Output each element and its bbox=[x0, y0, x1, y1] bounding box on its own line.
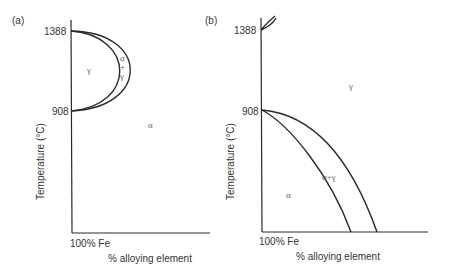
panel-b-tick-908: 908 bbox=[242, 106, 259, 117]
panel-b-y-axis-label: Temperature (°C) bbox=[225, 123, 236, 200]
panel-b-alpha-label: α bbox=[286, 190, 291, 200]
panel-a-alpha-label: α bbox=[148, 120, 153, 130]
panel-b-x-axis-label: % alloying element bbox=[296, 251, 380, 262]
phase-diagram-figure: (a) 1388 908 Temperature (°C) 100% Fe % … bbox=[0, 0, 453, 269]
panel-b-tick-1388: 1388 bbox=[234, 25, 257, 36]
panel-b-upper-curve-2 bbox=[261, 18, 276, 30]
panel-a-x-axis-label: % alloying element bbox=[108, 253, 192, 264]
panel-a-origin-label: 100% Fe bbox=[70, 238, 110, 249]
panel-a-tick-908: 908 bbox=[52, 106, 69, 117]
panel-a-label: (a) bbox=[12, 15, 24, 26]
panel-a-gamma-label: γ bbox=[86, 65, 91, 75]
panel-a-two-phase-gamma: γ bbox=[119, 71, 124, 81]
panel-a-tick-1388: 1388 bbox=[44, 26, 67, 37]
panel-b: (b) 1388 908 Temperature (°C) 100% Fe % … bbox=[205, 15, 428, 262]
panel-b-two-phase-label: α+γ bbox=[322, 172, 336, 182]
panel-b-label: (b) bbox=[205, 15, 217, 26]
panel-b-lower-boundary-inner bbox=[262, 110, 351, 232]
panel-b-origin-label: 100% Fe bbox=[259, 236, 299, 247]
panel-a: (a) 1388 908 Temperature (°C) 100% Fe % … bbox=[12, 15, 210, 264]
panel-b-y-axis bbox=[261, 18, 262, 232]
panel-b-gamma-label: γ bbox=[348, 81, 353, 91]
panel-a-y-axis-label: Temperature (°C) bbox=[35, 123, 46, 200]
panel-a-y-axis bbox=[71, 20, 72, 233]
